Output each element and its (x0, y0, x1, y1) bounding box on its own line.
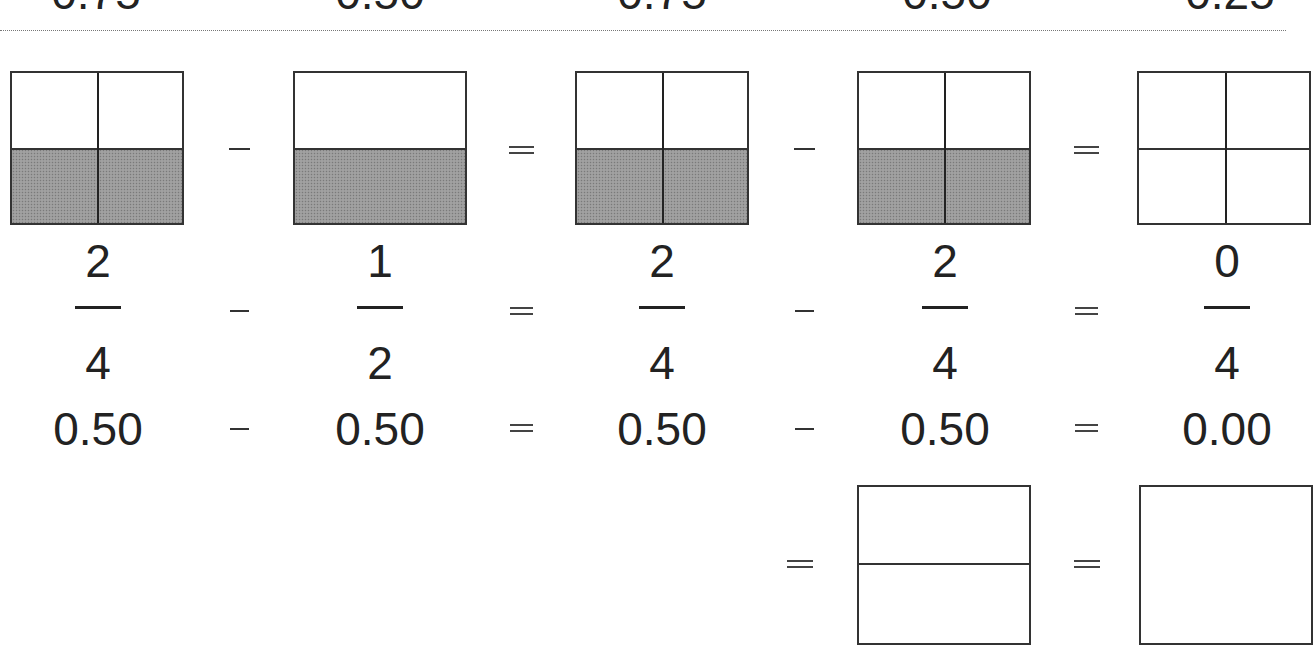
numerator-4: 2 (875, 238, 1015, 284)
equals-sign (510, 307, 533, 315)
decimal-2: 0.50 (310, 406, 450, 452)
fraction-box-3 (575, 71, 749, 225)
minus-sign (794, 148, 815, 150)
decimal-3: 0.50 (592, 406, 732, 452)
equals-sign (787, 560, 813, 568)
equals-sign (1074, 146, 1099, 154)
minus-sign (230, 428, 249, 430)
fraction-bar (75, 306, 121, 309)
top-value-1: 0.75 (26, 0, 166, 16)
equals-sign (1075, 307, 1098, 315)
fraction-box-7 (1139, 485, 1313, 645)
horizontal-divider (1139, 148, 1309, 150)
vertical-divider (662, 73, 664, 223)
decimal-1: 0.50 (28, 406, 168, 452)
denominator-3: 4 (592, 340, 732, 386)
fraction-box-1 (10, 71, 184, 225)
numerator-3: 2 (592, 238, 732, 284)
numerator-1: 2 (28, 238, 168, 284)
equals-sign (509, 146, 534, 154)
fraction-bar (639, 306, 685, 309)
denominator-5: 4 (1157, 340, 1297, 386)
vertical-divider (97, 73, 99, 223)
minus-sign (229, 148, 250, 150)
equals-sign (510, 424, 533, 432)
top-value-4: 0.50 (877, 0, 1017, 16)
minus-sign (230, 310, 249, 312)
equals-sign (1075, 424, 1098, 432)
denominator-4: 4 (875, 340, 1015, 386)
section-divider (0, 30, 1286, 31)
fraction-bar (357, 306, 403, 309)
decimal-5: 0.00 (1157, 406, 1297, 452)
fraction-box-6 (857, 485, 1031, 645)
fraction-box-4 (857, 71, 1031, 225)
numerator-2: 1 (310, 238, 450, 284)
fraction-bar (922, 306, 968, 309)
fraction-box-5 (1137, 71, 1311, 225)
decimal-4: 0.50 (875, 406, 1015, 452)
vertical-divider (944, 73, 946, 223)
horizontal-divider (295, 148, 465, 150)
top-value-3: 0.75 (592, 0, 732, 16)
vertical-divider (1225, 73, 1227, 223)
denominator-2: 2 (310, 340, 450, 386)
equals-sign (1074, 560, 1100, 568)
minus-sign (795, 428, 814, 430)
top-value-2: 0.50 (310, 0, 450, 16)
numerator-5: 0 (1157, 238, 1297, 284)
minus-sign (795, 310, 814, 312)
denominator-1: 4 (28, 340, 168, 386)
top-value-5: 0.25 (1160, 0, 1300, 16)
horizontal-divider (859, 563, 1029, 565)
fraction-box-2 (293, 71, 467, 225)
fraction-bar (1204, 306, 1250, 309)
shaded-region (295, 149, 465, 223)
